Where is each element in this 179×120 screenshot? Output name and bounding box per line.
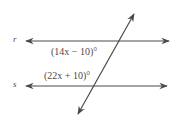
line-s-label: s bbox=[13, 80, 17, 89]
angle-label-top: (14x − 10)° bbox=[51, 47, 97, 57]
angle-label-bottom: (22x + 10)° bbox=[44, 71, 90, 81]
line-r-label: r bbox=[13, 35, 17, 44]
diagram-canvas bbox=[0, 0, 179, 120]
transversal-line bbox=[78, 14, 134, 114]
